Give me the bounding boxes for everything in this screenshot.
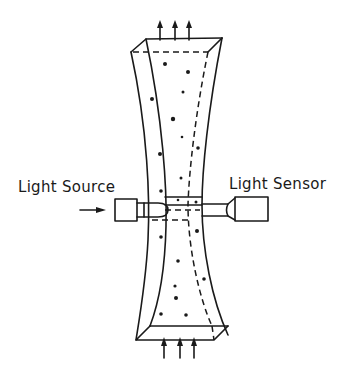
top-load-arrows [157, 20, 192, 40]
specimen [131, 38, 228, 340]
arrow-up-icon [172, 20, 178, 40]
light-sensor [202, 197, 268, 221]
arrow-up-icon [157, 20, 163, 40]
light-sensor-label: Light Sensor [229, 177, 326, 192]
speckle-particles [150, 62, 206, 317]
light-source-label: Light Source [18, 180, 115, 195]
arrow-up-icon [186, 20, 192, 40]
input-arrow [80, 207, 106, 213]
light-source [80, 199, 168, 221]
